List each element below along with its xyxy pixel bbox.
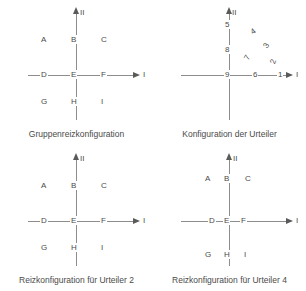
panel-caption: Gruppenreizkonfiguration <box>0 129 153 139</box>
x-axis-label: I <box>296 70 298 79</box>
panel-konfiguration-der-urteiler: I II 5 8 9 6 1 4 3 7 2 Konfiguration der… <box>153 0 306 145</box>
x-axis-arrow <box>133 218 140 224</box>
panel-gruppenreizkonfiguration: I II A B C D E F G H I Gruppenreizkonfig… <box>0 0 153 145</box>
arc-number-4: 4 <box>249 27 258 37</box>
cell-label-h: H <box>70 243 78 252</box>
arc-number-3: 3 <box>261 41 271 50</box>
cell-label-b: B <box>70 181 77 190</box>
cell-label-e: E <box>70 216 77 225</box>
cell-label-g: G <box>40 243 48 252</box>
cell-label-d: D <box>208 216 216 225</box>
x-axis-arrow <box>133 72 140 78</box>
cell-label-c: C <box>100 181 108 190</box>
y-axis-arrow <box>226 153 232 160</box>
cell-label-i: I <box>243 250 247 259</box>
cell-label-f: F <box>100 216 107 225</box>
axis-number-9: 9 <box>224 70 230 79</box>
cell-label-c: C <box>244 174 252 183</box>
y-axis <box>229 14 230 120</box>
cell-label-e: E <box>70 70 77 79</box>
y-axis-label: II <box>80 8 84 17</box>
cell-label-a: A <box>40 35 47 44</box>
x-axis-label: I <box>143 216 145 225</box>
axis-number-8: 8 <box>224 45 230 54</box>
cell-label-d: D <box>40 216 48 225</box>
cell-label-a: A <box>40 181 47 190</box>
y-axis-label: II <box>233 154 237 163</box>
cell-label-a: A <box>204 174 211 183</box>
axis-number-1: 1 <box>277 70 283 79</box>
x-axis-arrow <box>286 72 293 78</box>
cell-label-h: H <box>223 250 231 259</box>
cell-label-g: G <box>204 250 212 259</box>
y-axis-arrow <box>73 153 79 160</box>
cell-label-i: I <box>100 97 104 106</box>
arc-number-7: 7 <box>242 53 252 61</box>
cell-label-f: F <box>100 70 107 79</box>
arc-number-2: 2 <box>268 58 278 65</box>
axis-number-5: 5 <box>224 20 230 29</box>
x-axis-label: I <box>143 70 145 79</box>
cell-label-f: F <box>240 216 247 225</box>
panel-caption: Konfiguration der Urteiler <box>153 129 306 139</box>
cell-label-b: B <box>223 174 230 183</box>
x-axis-arrow <box>286 218 293 224</box>
cell-label-b: B <box>70 35 77 44</box>
panel-reizkonfiguration-urteiler-2: I II A B C D E F G H I Reizkonfiguration… <box>0 146 153 291</box>
y-axis-arrow <box>226 7 232 14</box>
y-axis-label: II <box>232 8 236 17</box>
x-axis <box>181 221 287 222</box>
panel-caption: Reizkonfiguration für Urteiler 2 <box>0 275 153 285</box>
cell-label-h: H <box>70 97 78 106</box>
y-axis-arrow <box>73 7 79 14</box>
cell-label-c: C <box>100 35 108 44</box>
figure-root: I II A B C D E F G H I Gruppenreizkonfig… <box>0 0 306 291</box>
x-axis-label: I <box>296 216 298 225</box>
x-axis <box>181 75 287 76</box>
axis-number-6: 6 <box>252 70 258 79</box>
cell-label-e: E <box>223 216 230 225</box>
y-axis-label: II <box>80 154 84 163</box>
cell-label-g: G <box>40 97 48 106</box>
panel-caption: Reizkonfiguration für Urteiler 4 <box>153 275 306 285</box>
cell-label-i: I <box>100 243 104 252</box>
panel-reizkonfiguration-urteiler-4: I II A B C D E F G H I Reizkonfiguration… <box>153 146 306 291</box>
cell-label-d: D <box>40 70 48 79</box>
